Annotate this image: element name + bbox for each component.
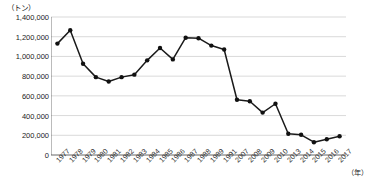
x-axis-unit-label: （年） [347,167,368,177]
x-axis-tick-2017: 2017 [336,147,354,165]
